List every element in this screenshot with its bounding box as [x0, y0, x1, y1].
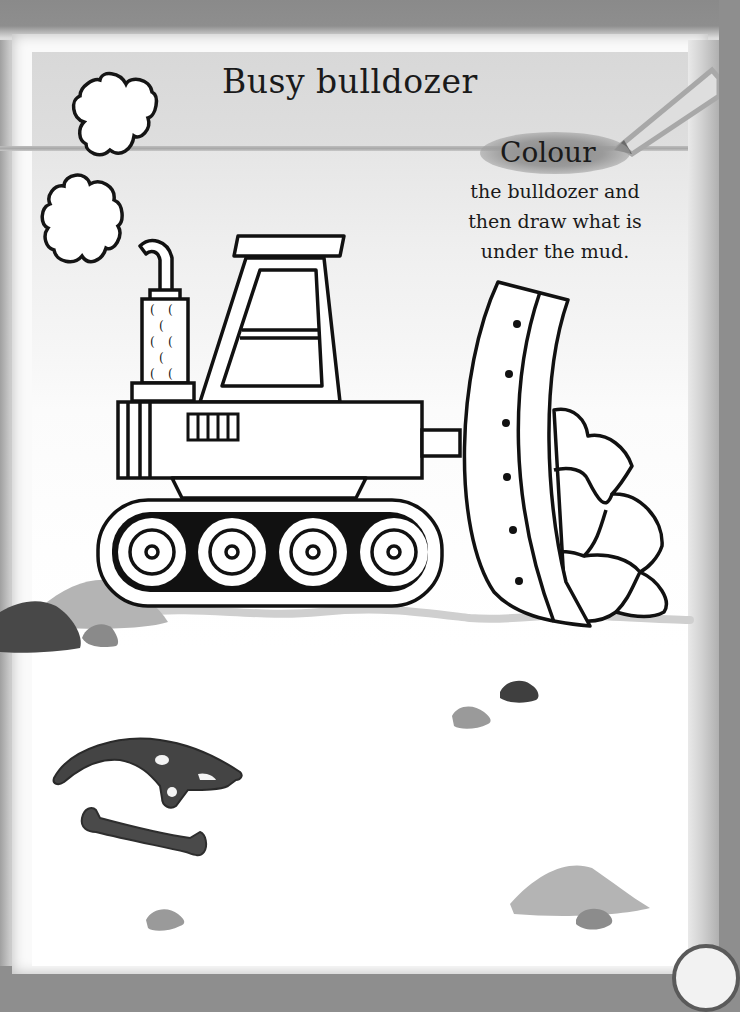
instruction-line: the bulldozer and: [450, 176, 660, 206]
mud-stone-dark: [500, 681, 538, 703]
svg-text:(: (: [150, 335, 155, 349]
grill-icon: [188, 414, 238, 440]
pencil-icon: [614, 70, 719, 154]
instruction-text: the bulldozer and then draw what is unde…: [450, 176, 660, 266]
svg-text:(: (: [159, 319, 164, 333]
svg-text:(: (: [150, 303, 155, 317]
fossil-skull-icon: [54, 739, 242, 808]
smoke-cloud-icon: [42, 175, 122, 262]
mud-stone-mid: [452, 706, 491, 728]
svg-text:(: (: [168, 335, 173, 349]
mud-stone-bottom-left: [146, 909, 184, 931]
page-number-badge: [672, 944, 740, 1012]
wheel-icon: [118, 518, 186, 586]
svg-text:(: (: [150, 367, 155, 381]
svg-text:(: (: [159, 351, 164, 365]
instruction-highlight: Colour: [500, 136, 596, 169]
cab: [200, 236, 344, 402]
wheel-icon: [360, 518, 428, 586]
bulldozer-body: [118, 402, 460, 498]
mud-pile-bottom-right: [510, 865, 650, 916]
fossil-bone-icon: [82, 808, 206, 855]
instruction-line: under the mud.: [450, 236, 660, 266]
wheel-icon: [198, 518, 266, 586]
smoke-cloud-icon: [74, 74, 157, 155]
instruction-line: then draw what is: [450, 206, 660, 236]
svg-text:(: (: [168, 367, 173, 381]
svg-text:(: (: [168, 303, 173, 317]
track: [98, 500, 442, 606]
wheel-icon: [279, 518, 347, 586]
exhaust-stack: (( ( (( ( ((: [132, 241, 194, 401]
